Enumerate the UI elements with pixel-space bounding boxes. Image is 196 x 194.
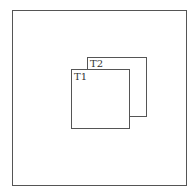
window-t1: T1 [71, 69, 130, 129]
window-t1-label: T1 [74, 72, 87, 82]
window-t2-label: T2 [90, 59, 103, 69]
